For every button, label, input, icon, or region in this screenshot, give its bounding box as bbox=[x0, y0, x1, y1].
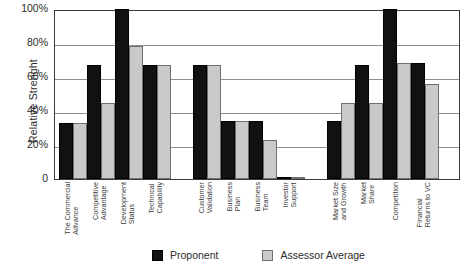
bar-pair bbox=[277, 11, 305, 179]
x-category-label: FinancialReturns to VC bbox=[410, 182, 438, 248]
y-tick-label: 40% bbox=[8, 104, 48, 116]
bar-proponent bbox=[143, 65, 157, 179]
x-category-label: CompetitiveAdvantage bbox=[86, 182, 114, 248]
label-group: The CommercialAdvanceCompetitiveAdvantag… bbox=[58, 182, 170, 248]
bar-pair bbox=[115, 11, 143, 179]
x-category-label-text: Market Sizeand Growth bbox=[332, 182, 348, 220]
bar-proponent bbox=[193, 65, 207, 179]
y-tick-label: 20% bbox=[8, 138, 48, 150]
bar-assessor-average bbox=[73, 123, 87, 179]
plot-area bbox=[54, 10, 460, 180]
bar-assessor-average bbox=[369, 103, 383, 180]
bar-group bbox=[59, 11, 171, 179]
bar-series-container bbox=[55, 11, 459, 179]
bar-assessor-average bbox=[291, 177, 305, 179]
bar-group bbox=[327, 11, 439, 179]
bar-pair bbox=[411, 11, 439, 179]
legend-swatch bbox=[262, 250, 273, 261]
x-category-label: Market Sizeand Growth bbox=[326, 182, 354, 248]
bar-pair bbox=[143, 11, 171, 179]
y-axis-tick-labels: 020%40%60%80%100% bbox=[8, 8, 48, 180]
chart-legend: ProponentAssessor Average bbox=[152, 249, 365, 261]
x-category-label: The CommercialAdvance bbox=[58, 182, 86, 248]
group-separator bbox=[171, 11, 193, 179]
x-category-label-text: CustomerValidation bbox=[198, 182, 214, 213]
bar-proponent bbox=[249, 121, 263, 179]
legend-swatch bbox=[152, 250, 163, 261]
label-group-separator bbox=[170, 182, 192, 248]
x-category-label: MarketShare bbox=[354, 182, 382, 248]
bar-pair bbox=[383, 11, 411, 179]
bar-proponent bbox=[115, 9, 129, 179]
bar-proponent bbox=[221, 121, 235, 179]
bar-assessor-average bbox=[207, 65, 221, 179]
x-category-label-text: InvestorSupport bbox=[282, 182, 298, 208]
y-tick-label: 0 bbox=[8, 172, 48, 184]
x-category-label-text: FinancialReturns to VC bbox=[416, 182, 432, 227]
x-category-label-text: The CommercialAdvance bbox=[64, 182, 80, 235]
x-category-label: Competition bbox=[382, 182, 410, 248]
x-category-label-text: CompetitiveAdvantage bbox=[92, 182, 108, 220]
x-category-label-text: DevelopmentStatus bbox=[120, 182, 136, 224]
bar-proponent bbox=[327, 121, 341, 179]
legend-label: Proponent bbox=[170, 249, 218, 261]
bar-assessor-average bbox=[425, 84, 439, 179]
bar-pair bbox=[193, 11, 221, 179]
x-category-label: CustomerValidation bbox=[192, 182, 220, 248]
x-category-label: BusinessPlan bbox=[220, 182, 248, 248]
x-category-label: InvestorSupport bbox=[276, 182, 304, 248]
x-category-label: BusinessTeam bbox=[248, 182, 276, 248]
bar-proponent bbox=[87, 65, 101, 179]
label-group: Market Sizeand GrowthMarketShareCompetit… bbox=[326, 182, 438, 248]
bar-pair bbox=[327, 11, 355, 179]
bar-proponent bbox=[411, 63, 425, 179]
legend-label: Assessor Average bbox=[280, 249, 364, 261]
x-category-label-text: MarketShare bbox=[360, 182, 376, 204]
bar-pair bbox=[87, 11, 115, 179]
bar-pair bbox=[59, 11, 87, 179]
x-category-label-text: BusinessTeam bbox=[254, 182, 270, 211]
bar-assessor-average bbox=[101, 103, 115, 180]
bar-assessor-average bbox=[235, 121, 249, 179]
label-group: CustomerValidationBusinessPlanBusinessTe… bbox=[192, 182, 304, 248]
bar-proponent bbox=[355, 65, 369, 179]
x-category-label: TechnicalCapability bbox=[142, 182, 170, 248]
x-category-label: DevelopmentStatus bbox=[114, 182, 142, 248]
bar-assessor-average bbox=[129, 46, 143, 179]
y-tick-label: 60% bbox=[8, 70, 48, 82]
bar-assessor-average bbox=[397, 63, 411, 179]
bar-group bbox=[193, 11, 305, 179]
group-separator bbox=[305, 11, 327, 179]
bar-pair bbox=[249, 11, 277, 179]
bar-assessor-average bbox=[157, 65, 171, 179]
x-category-label-text: TechnicalCapability bbox=[148, 182, 164, 214]
y-tick-label: 80% bbox=[8, 36, 48, 48]
legend-item: Assessor Average bbox=[262, 249, 364, 261]
y-tick-label: 100% bbox=[8, 2, 48, 14]
label-group-separator bbox=[304, 182, 326, 248]
x-axis-category-labels: The CommercialAdvanceCompetitiveAdvantag… bbox=[54, 182, 460, 248]
bar-proponent bbox=[59, 123, 73, 179]
bar-assessor-average bbox=[341, 103, 355, 180]
bar-proponent bbox=[383, 9, 397, 179]
bar-pair bbox=[355, 11, 383, 179]
legend-item: Proponent bbox=[152, 249, 218, 261]
bar-chart-figure: Relative Strenght 020%40%60%80%100% The … bbox=[0, 0, 467, 271]
bar-pair bbox=[221, 11, 249, 179]
bar-proponent bbox=[277, 177, 291, 179]
x-category-label-text: Competition bbox=[392, 182, 400, 220]
bar-assessor-average bbox=[263, 140, 277, 179]
x-category-label-text: BusinessPlan bbox=[226, 182, 242, 211]
